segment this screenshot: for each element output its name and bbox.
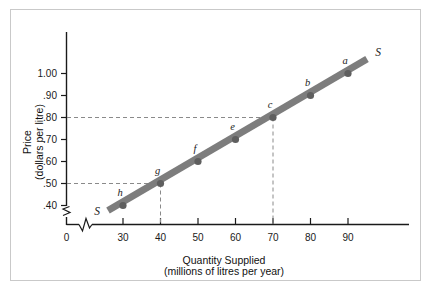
data-point-g[interactable]: [157, 180, 164, 187]
data-point-label-f: f: [194, 143, 199, 154]
x-tick-label-0: 0: [64, 232, 70, 243]
x-axis-subtitle: (millions of litres per year): [164, 265, 284, 277]
supply-curve-label-end: S: [375, 46, 381, 58]
y-tick-label-0: 1.00: [38, 68, 58, 79]
data-point-label-h: h: [117, 187, 122, 198]
x-tick-label-3: 50: [192, 232, 204, 243]
x-tick-label-4: 60: [230, 232, 242, 243]
x-axis-title-group: Quantity Supplied (millions of litres pe…: [164, 254, 284, 277]
supply-curve-line[interactable]: [108, 59, 367, 211]
y-tick-label-6: .40: [43, 200, 57, 211]
y-tick-label-2: .80: [43, 112, 57, 123]
data-point-a[interactable]: [344, 70, 351, 77]
x-tick-label-6: 80: [305, 232, 317, 243]
supply-curve-label-start: S: [94, 205, 100, 217]
x-tick-label-7: 90: [342, 232, 354, 243]
data-point-labels-group: h g f e c b a: [117, 55, 347, 198]
y-tick-label-5: .50: [43, 178, 57, 189]
x-tick-label-1: 30: [117, 232, 129, 243]
y-axis-break-mark: [63, 207, 70, 216]
x-tick-label-2: 40: [155, 232, 167, 243]
y-tick-label-1: .90: [43, 90, 57, 101]
y-tick-label-3: .70: [43, 134, 57, 145]
y-tick-label-4: .60: [43, 156, 57, 167]
data-point-label-g: g: [155, 165, 160, 176]
data-point-c[interactable]: [269, 114, 276, 121]
supply-curve-chart: 1.00 .90 .80 .70 .60 .50 .40 0 30 40 50 …: [11, 10, 420, 280]
data-point-label-b: b: [305, 77, 310, 88]
data-point-label-e: e: [230, 121, 235, 132]
y-axis-title: Price: [21, 130, 33, 154]
data-point-f[interactable]: [194, 158, 201, 165]
figure-frame: 1.00 .90 .80 .70 .60 .50 .40 0 30 40 50 …: [10, 9, 421, 281]
data-point-label-a: a: [342, 55, 347, 66]
data-point-label-c: c: [268, 99, 273, 110]
data-point-e[interactable]: [232, 136, 239, 143]
y-axis-ticks: [61, 74, 67, 206]
y-axis-subtitle: (dollars per litre): [33, 104, 45, 180]
x-tick-label-5: 70: [267, 232, 279, 243]
x-axis-tick-labels: 0 30 40 50 60 70 80 90: [64, 232, 354, 243]
x-axis-break-mark: [79, 219, 92, 232]
y-axis-title-group: Price (dollars per litre): [21, 104, 45, 180]
x-axis-ticks: [123, 218, 348, 225]
data-point-h[interactable]: [119, 202, 126, 209]
data-point-b[interactable]: [307, 92, 314, 99]
